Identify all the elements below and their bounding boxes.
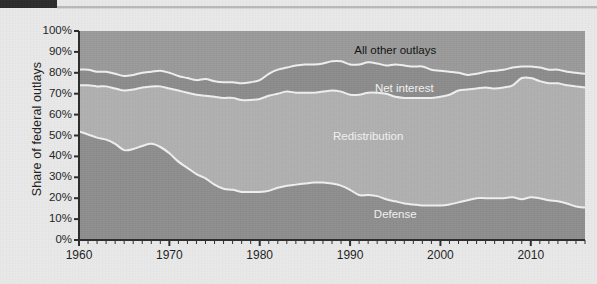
stacked-area-plot <box>0 0 597 284</box>
series-label-net-interest: Net interest <box>375 82 434 94</box>
corner-block-decoration <box>0 0 57 8</box>
series-label-defense: Defense <box>374 208 417 220</box>
chart-figure: Share of federal outlays 100%90%80%70%60… <box>0 0 597 284</box>
top-rule-divider-secondary <box>57 8 597 9</box>
series-label-all-other-outlays: All other outlays <box>354 44 436 56</box>
series-label-redistribution: Redistribution <box>333 130 403 142</box>
